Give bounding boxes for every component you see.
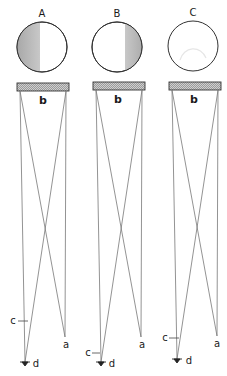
rays-c <box>172 90 218 359</box>
bar-label-c: b <box>190 93 198 106</box>
panel-label-a: A <box>39 8 46 19</box>
bar-b-c <box>169 82 221 90</box>
circle-a <box>17 22 67 72</box>
panel-label-c: C <box>190 7 197 18</box>
panel-c: C b c a d <box>162 7 221 366</box>
panel-b: B b c a d <box>85 8 145 369</box>
circle-c <box>168 21 218 71</box>
eye-icon <box>96 362 106 366</box>
rays-b <box>96 90 142 362</box>
panel-label-b: B <box>114 8 121 19</box>
diagram-canvas: A b c a d B b <box>0 0 227 376</box>
bar-label-a: b <box>39 94 47 107</box>
circle-b <box>92 22 145 72</box>
bar-b-a <box>17 83 69 91</box>
label-d-a: d <box>33 358 39 369</box>
bar-label-b: b <box>114 93 122 106</box>
label-d-c: d <box>186 355 192 366</box>
label-a-c: a <box>214 338 220 349</box>
panel-a: A b c a d <box>10 8 69 369</box>
label-c-b: c <box>85 347 91 358</box>
label-c-a: c <box>10 315 16 326</box>
label-a-a: a <box>63 339 69 350</box>
eye-icon <box>172 359 182 363</box>
bar-b-b <box>93 82 145 90</box>
label-c-c: c <box>162 332 168 343</box>
label-a-b: a <box>139 339 145 350</box>
shaded-half-left <box>17 22 40 72</box>
eye-icon <box>20 362 30 366</box>
label-d-b: d <box>109 358 115 369</box>
